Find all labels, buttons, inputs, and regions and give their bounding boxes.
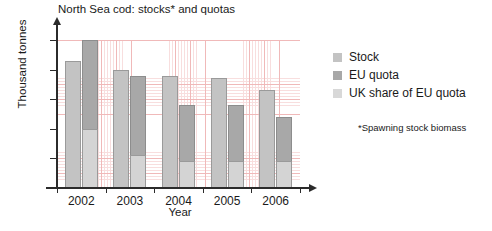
bar-uk-share-2004 [179,161,195,188]
x-tick-2004 [203,188,204,193]
x-tick-2005 [251,188,252,193]
legend-swatch-eu-quota-icon [333,71,342,80]
legend-label-eu-quota: EU quota [349,68,399,83]
y-tick-40 [50,70,57,71]
x-tick-2002 [106,188,107,193]
y-tick-10 [50,158,57,159]
bar-eu-quota-2003 [130,76,146,188]
legend-label-uk-share: UK share of EU quota [349,86,466,101]
bar-stock-2005 [211,78,227,188]
bar-eu-quota-2005 [228,105,244,188]
bar-uk-share-2003 [130,155,146,188]
plot-grid [57,40,300,188]
y-tick-30 [50,99,57,100]
chart-figure: North Sea cod: stocks* and quotas Thousa… [0,0,492,231]
bar-uk-share-2002 [82,129,98,188]
bar-eu-quota-2006 [276,117,292,188]
bar-stock-2002 [65,61,81,188]
bar-uk-share-2006 [276,161,292,188]
bar-stock-2004 [162,76,178,188]
bar-eu-quota-2004 [179,105,195,188]
legend-item-eu-quota: EU quota [333,68,491,83]
legend-swatch-stock-icon [333,53,342,62]
x-tick-2006 [300,188,301,193]
bar-stock-2003 [113,70,129,188]
x-tick-origin [57,188,58,193]
legend-item-stock: Stock [333,50,491,65]
bar-eu-quota-2002 [82,40,98,188]
legend-swatch-uk-share-icon [333,89,342,98]
bar-uk-share-2005 [228,161,244,188]
legend-item-uk-share: UK share of EU quota [333,86,491,101]
bar-stock-2006 [259,90,275,188]
x-tick-label-2006: 2006 [246,194,306,208]
y-tick-0 [50,188,57,189]
chart-title: North Sea cod: stocks* and quotas [58,2,308,16]
chart-legend: Stock EU quota UK share of EU quota [333,50,491,104]
x-tick-2003 [154,188,155,193]
y-tick-20 [50,129,57,130]
chart-footnote: *Spawning stock biomass [358,122,490,134]
chart-area: North Sea cod: stocks* and quotas Thousa… [0,0,318,231]
legend-label-stock: Stock [349,50,379,65]
x-axis-line [46,187,310,189]
y-axis-line [56,24,58,189]
y-axis-label: Thousand tonnes [16,0,28,144]
y-tick-50 [50,40,57,41]
